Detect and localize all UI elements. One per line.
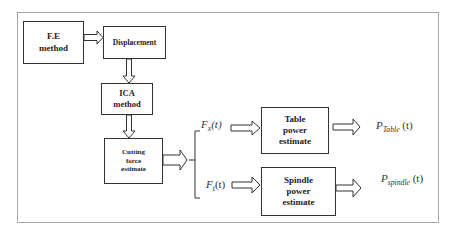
arrow-displacement-to-ica xyxy=(123,59,135,83)
arrow-fe-to-displacement xyxy=(84,31,103,44)
cutting-force-line2: force xyxy=(121,157,146,166)
p-table-sub: Table xyxy=(383,125,400,134)
table-power-line3: estimate xyxy=(279,136,311,147)
spindle-power-line2: power xyxy=(283,186,315,197)
fe-method-box: F.Emethod xyxy=(23,21,84,64)
ica-method-line1: ICA xyxy=(113,88,140,99)
table-power-box: Tablepowerestimate xyxy=(261,107,329,154)
spindle-power-box: Spindlepowerestimate xyxy=(261,167,336,216)
ica-method-box: ICAmethod xyxy=(101,83,153,115)
p-table-base: P xyxy=(376,119,383,131)
p-table-label: PTable (t) xyxy=(376,119,413,134)
arrow-cutting-to-split xyxy=(163,150,187,170)
cutting-force-line1: Cutting xyxy=(121,148,146,157)
arrow-table-to-ptable xyxy=(333,119,360,135)
displacement-label: Displacement xyxy=(113,38,156,47)
p-spindle-sub: spindle xyxy=(388,178,410,187)
p-spindle-label: Pspindle (t) xyxy=(381,172,423,187)
ft-base: F xyxy=(206,178,213,190)
table-power-line1: Table xyxy=(279,114,311,125)
fe-method-line1: F.E xyxy=(39,31,68,42)
displacement-box: Displacement xyxy=(103,26,166,59)
arrow-ica-to-cutting xyxy=(123,115,135,138)
spindle-power-line1: Spindle xyxy=(283,175,315,186)
fx-arg: (t) xyxy=(211,118,221,130)
p-spindle-arg: (t) xyxy=(413,172,423,184)
split-bracket xyxy=(189,131,200,198)
arrow-ft-to-spindle xyxy=(232,177,260,193)
arrow-spindle-to-pspindle xyxy=(336,179,361,197)
fe-method-line2: method xyxy=(39,43,68,54)
arrow-fx-to-table xyxy=(231,121,260,135)
fx-base: F xyxy=(201,118,208,130)
ft-label: Ft(t) xyxy=(206,178,225,193)
ft-arg: (t) xyxy=(215,178,225,190)
table-power-line2: power xyxy=(279,125,311,136)
spindle-power-line3: estimate xyxy=(283,197,315,208)
fx-label: Fx(t) xyxy=(201,118,222,133)
cutting-force-line3: estimate xyxy=(121,165,146,174)
cutting-force-box: Cuttingforceestimate xyxy=(104,138,163,184)
p-spindle-base: P xyxy=(381,172,388,184)
ica-method-line2: method xyxy=(113,99,140,110)
p-table-arg: (t) xyxy=(402,119,412,131)
